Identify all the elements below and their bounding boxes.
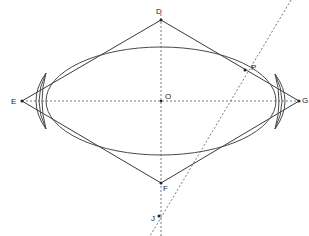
label-E: E <box>11 97 16 106</box>
label-F: F <box>163 184 168 193</box>
geometry-diagram: D E F G O P J <box>0 0 309 236</box>
conic-arc-right-1 <box>275 74 285 129</box>
point-D <box>160 19 163 22</box>
point-E <box>21 100 24 103</box>
point-J <box>158 215 161 218</box>
label-O: O <box>165 92 171 101</box>
label-D: D <box>156 7 162 16</box>
label-G: G <box>302 96 308 105</box>
label-J: J <box>151 214 155 223</box>
point-P <box>244 69 247 72</box>
point-O <box>160 100 162 102</box>
label-P: P <box>251 63 256 72</box>
conic-arc-left-1 <box>36 73 46 129</box>
point-G <box>298 100 301 103</box>
